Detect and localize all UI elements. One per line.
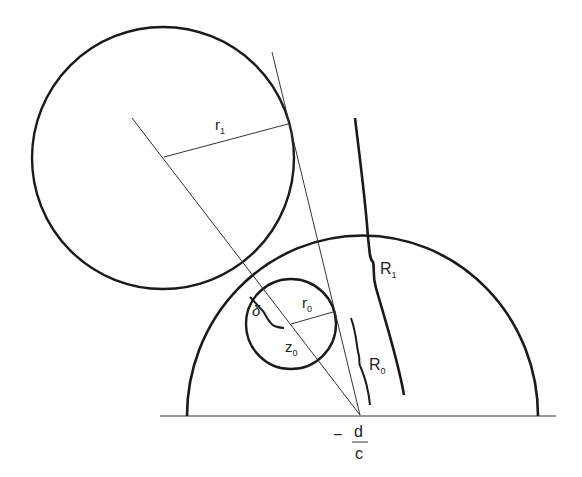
label-z0: z0 bbox=[285, 338, 298, 358]
radius-r1 bbox=[164, 124, 288, 157]
label-r0: r0 bbox=[302, 294, 312, 314]
geometry-diagram: r1 r0 z0 δ R1 R0 − d c bbox=[0, 0, 582, 477]
label-r1: r1 bbox=[215, 116, 225, 136]
fraction-numerator: d bbox=[354, 423, 363, 440]
label-delta: δ bbox=[252, 302, 261, 319]
label-R1: R1 bbox=[380, 260, 397, 280]
curve-R0 bbox=[351, 318, 370, 405]
fraction-minus: − bbox=[333, 426, 342, 443]
fraction-denominator: c bbox=[355, 445, 363, 462]
label-R0: R0 bbox=[369, 356, 386, 376]
large-semicircle bbox=[187, 235, 538, 416]
center-line bbox=[132, 118, 360, 415]
curve-R1 bbox=[355, 118, 404, 395]
